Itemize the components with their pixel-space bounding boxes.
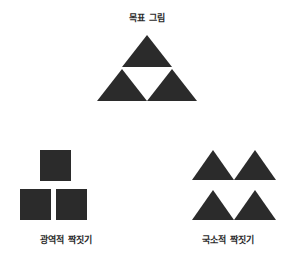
local-matching-caption: 국소적 짝짓기 [162,234,294,246]
local-matching-panel [192,150,276,224]
local-triangle-row2-col1 [192,190,234,220]
global-square-top [40,150,71,181]
target-triangle-base-right [147,69,197,101]
global-matching-panel [20,150,90,224]
figure-root: 목표 그림 광역적 짝짓기 국소적 짝짓기 [0,0,294,261]
global-matching-caption: 광역적 짝짓기 [0,234,132,246]
target-triangle-apex [122,35,172,67]
global-square-bottom-right [56,189,87,220]
local-triangle-row1-col1 [192,150,234,180]
target-triangle-base-left [97,69,147,101]
target-figure-panel [97,33,197,105]
local-triangle-row1-col2 [234,150,276,180]
global-square-bottom-left [20,189,51,220]
target-figure-title: 목표 그림 [0,12,294,24]
local-triangle-row2-col2 [234,190,276,220]
